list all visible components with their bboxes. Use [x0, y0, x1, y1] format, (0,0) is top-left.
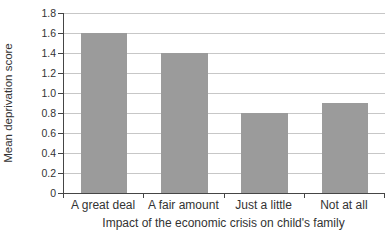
x-tick-mark: [384, 194, 385, 198]
bar-slot: [64, 13, 144, 193]
y-tick-label: 0.2: [30, 168, 56, 178]
bar: [241, 113, 288, 193]
y-tick-mark: [58, 153, 63, 154]
y-tick-mark: [58, 13, 63, 14]
y-axis-title-text: Mean deprivation score: [2, 43, 14, 163]
y-tick-label: 1.2: [30, 68, 56, 78]
y-tick-label: 0.4: [30, 148, 56, 158]
category-label: Not at all: [304, 198, 384, 212]
y-tick-mark: [58, 113, 63, 114]
y-tick-label: 1.0: [30, 88, 56, 98]
y-tick-label: 0.8: [30, 108, 56, 118]
y-tick-mark: [58, 173, 63, 174]
y-tick-label: 1.6: [30, 28, 56, 38]
y-tick-mark: [58, 93, 63, 94]
y-tick-label: 0: [30, 188, 56, 198]
category-label: A great deal: [63, 198, 143, 212]
bar-slot: [225, 13, 305, 193]
plot-area: [63, 13, 385, 194]
y-tick-label: 0.6: [30, 128, 56, 138]
bar-slot: [144, 13, 224, 193]
bar: [81, 33, 128, 193]
bar: [322, 103, 369, 193]
y-tick-mark: [58, 33, 63, 34]
y-tick-label: 1.8: [30, 8, 56, 18]
y-tick-mark: [58, 73, 63, 74]
bar-chart-figure: Mean deprivation score 00.20.40.60.81.01…: [0, 0, 389, 235]
bar: [161, 53, 208, 193]
bar-slot: [305, 13, 385, 193]
x-axis-category-labels: A great dealA fair amountJust a littleNo…: [63, 198, 384, 212]
y-tick-label: 1.4: [30, 48, 56, 58]
x-axis-title: Impact of the economic crisis on child's…: [63, 216, 384, 230]
category-label: Just a little: [224, 198, 304, 212]
y-tick-mark: [58, 53, 63, 54]
bars-group: [64, 13, 385, 193]
y-tick-mark: [58, 133, 63, 134]
y-axis-title: Mean deprivation score: [0, 13, 16, 193]
category-label: A fair amount: [143, 198, 223, 212]
